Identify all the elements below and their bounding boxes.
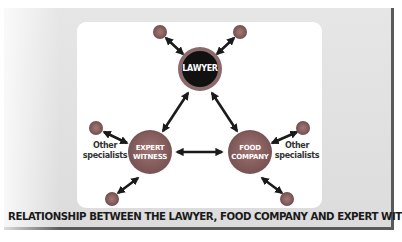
right-specialists-label: Other specialists — [272, 141, 322, 161]
food-company-label: FOOD COMPANY — [222, 144, 278, 161]
arrow-lawyer-food — [212, 93, 237, 131]
arrow-food-sat-bottom — [262, 178, 282, 193]
expert-witness-line2: WITNESS — [122, 153, 178, 162]
arrow-lawyer-sat-topright — [217, 38, 234, 54]
lawyer-label: LAWYER — [170, 64, 230, 73]
expert-witness-line1: EXPERT — [122, 144, 178, 153]
satellite-node-bottomright — [280, 192, 294, 206]
satellite-node-right — [296, 121, 310, 135]
arrow-expert-sat-bottom — [118, 178, 138, 193]
arrow-lawyer-sat-topleft — [166, 38, 183, 54]
satellite-node-bottomleft — [105, 192, 119, 206]
figure-caption: RELATIONSHIP BETWEEN THE LAWYER, FOOD CO… — [8, 211, 388, 222]
food-company-line1: FOOD — [222, 144, 278, 153]
left-specialists-line1: Other — [80, 141, 130, 151]
expert-witness-label: EXPERT WITNESS — [122, 144, 178, 161]
right-specialists-line2: specialists — [272, 151, 322, 161]
left-specialists-line2: specialists — [80, 151, 130, 161]
food-company-line2: COMPANY — [222, 153, 278, 162]
arrow-lawyer-expert — [163, 93, 188, 131]
satellite-node-left — [89, 121, 103, 135]
right-specialists-line1: Other — [272, 141, 322, 151]
satellite-node-topright — [233, 25, 247, 39]
relationship-diagram — [0, 0, 402, 242]
left-specialists-label: Other specialists — [80, 141, 130, 161]
satellite-node-topleft — [153, 25, 167, 39]
